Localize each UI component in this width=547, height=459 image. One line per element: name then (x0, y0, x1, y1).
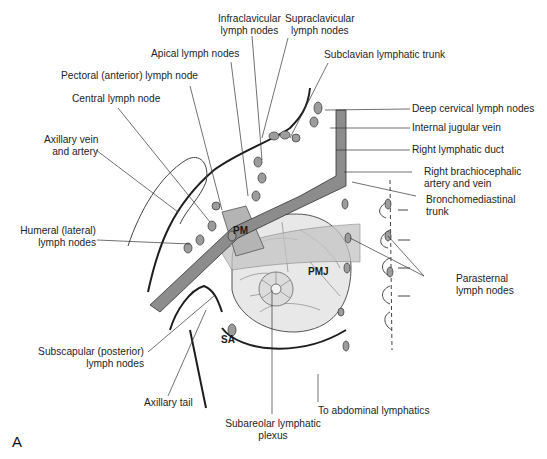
label-subareolar-lymphatic-plexus: Subareolar lymphatic plexus (214, 418, 332, 442)
label-subclavian-lymphatic-trunk: Subclavian lymphatic trunk (324, 49, 445, 61)
ribs (380, 180, 410, 350)
label-infraclavicular-lymph-nodes: Infraclavicular lymph nodes (218, 13, 281, 37)
label-parasternal-lymph-nodes: Parasternal lymph nodes (456, 273, 514, 297)
label-central-lymph-node: Central lymph node (72, 93, 160, 105)
label-pectoral-lymph-node: Pectoral (anterior) lymph node (61, 70, 198, 82)
serratus-anterior-label: SA (221, 334, 235, 345)
label-to-abdominal-lymphatics: To abdominal lymphatics (318, 405, 430, 417)
label-supraclavicular-lymph-nodes: Supraclavicular lymph nodes (285, 13, 355, 37)
label-axillary-vein-and-artery: Axillary vein and artery (44, 134, 98, 158)
label-apical-lymph-nodes: Apical lymph nodes (151, 48, 239, 60)
pectoralis-major-label: PMJ (308, 266, 329, 277)
label-bronchomediastinal-trunk: Bronchomediastinal trunk (426, 194, 515, 218)
panel-letter: A (12, 433, 22, 450)
label-internal-jugular-vein: Internal jugular vein (412, 122, 501, 134)
label-right-brachiocephalic-artery-and-vein: Right brachiocephalic artery and vein (424, 166, 521, 190)
label-subscapular-lymph-nodes: Subscapular (posterior) lymph nodes (28, 346, 144, 370)
lymphatic-drainage-diagram: PM PMJ SA Infraclavicular lymph nodes Su… (0, 0, 547, 459)
label-axillary-tail: Axillary tail (144, 397, 193, 409)
pectoralis-minor-label: PM (233, 225, 248, 236)
label-right-lymphatic-duct: Right lymphatic duct (412, 144, 504, 156)
label-deep-cervical-lymph-nodes: Deep cervical lymph nodes (412, 103, 534, 115)
label-humeral-lymph-nodes: Humeral (lateral) lymph nodes (8, 225, 96, 249)
